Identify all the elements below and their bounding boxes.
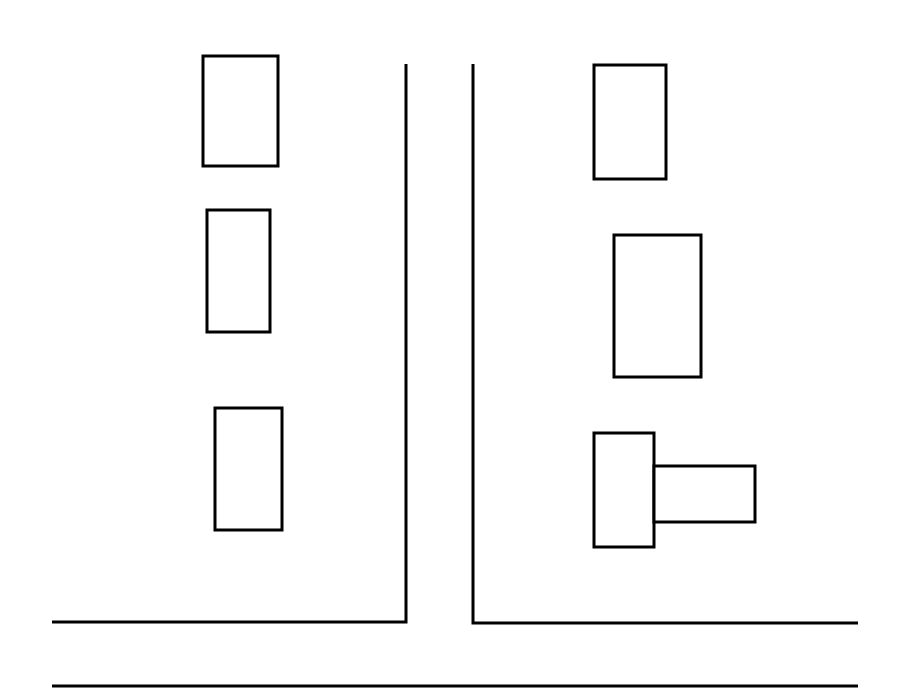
building-left-3 xyxy=(215,408,282,530)
roads xyxy=(52,64,858,686)
building-right-3-annex xyxy=(654,466,755,522)
building-right-2 xyxy=(614,235,701,377)
building-right-3-main xyxy=(594,433,654,547)
building-left-1 xyxy=(203,56,278,166)
street-diagram xyxy=(0,0,898,696)
buildings xyxy=(203,56,755,547)
building-left-2 xyxy=(207,210,270,332)
building-right-1 xyxy=(594,65,666,179)
